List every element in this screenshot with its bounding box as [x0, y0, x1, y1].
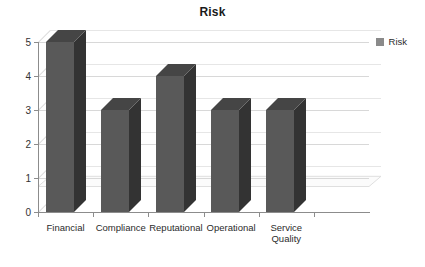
y-axis-tick-label: 5 [25, 37, 31, 48]
bar-top-face [266, 98, 306, 110]
x-axis-category-label: Financial [47, 222, 85, 233]
bar-side-face [184, 64, 196, 212]
y-axis-tick-label: 3 [25, 105, 31, 116]
bar-top-face [46, 30, 86, 42]
gridline [38, 110, 369, 111]
x-axis-tick [259, 212, 260, 217]
bar-front-face [156, 76, 184, 212]
bar-side-face [239, 98, 251, 212]
y-axis-tick [34, 178, 38, 179]
y-axis-tick [34, 42, 38, 43]
bar-side-face [74, 30, 86, 212]
y-axis-tick [34, 110, 38, 111]
bar-side-face [294, 98, 306, 212]
bar-side-face [129, 98, 141, 212]
gridline [38, 144, 369, 145]
y-axis-tick [34, 76, 38, 77]
y-axis-tick-label: 0 [25, 207, 31, 218]
y-axis-line [38, 42, 39, 213]
plot-area: 012345 FinancialComplianceReputationalOp… [38, 42, 405, 212]
x-axis-tick [314, 212, 315, 217]
x-axis-tick [93, 212, 94, 217]
x-axis-category-label: Compliance [96, 222, 146, 233]
x-axis-tick [148, 212, 149, 217]
y-axis-tick [34, 144, 38, 145]
bar-top-face [156, 64, 196, 76]
bar-front-face [46, 42, 74, 212]
y-axis-tick-label: 2 [25, 139, 31, 150]
x-axis-category-label: Reputational [149, 222, 202, 233]
bar-front-face [101, 110, 129, 212]
y-axis-tick-label: 4 [25, 71, 31, 82]
bar-financial[interactable] [46, 42, 74, 212]
x-axis-tick [204, 212, 205, 217]
bar-front-face [266, 110, 294, 212]
bar-top-face [101, 98, 141, 110]
gridline-back [50, 30, 381, 31]
x-axis-category-label: Operational [207, 222, 256, 233]
gridline [38, 76, 369, 77]
risk-bar-chart: Risk Risk 012345 FinancialComplianceRepu… [0, 0, 425, 267]
gridline-back [50, 64, 381, 65]
bar-front-face [211, 110, 239, 212]
bar-compliance[interactable] [101, 110, 129, 212]
chart-title: Risk [0, 5, 425, 19]
x-axis-category-label: Service Quality [270, 222, 302, 244]
y-axis-tick-label: 1 [25, 173, 31, 184]
x-axis-tick [38, 212, 39, 217]
bar-reputational[interactable] [156, 76, 184, 212]
bar-service-quality[interactable] [266, 110, 294, 212]
bar-top-face [211, 98, 251, 110]
gridline [38, 42, 369, 43]
gridline [38, 178, 369, 179]
bar-operational[interactable] [211, 110, 239, 212]
